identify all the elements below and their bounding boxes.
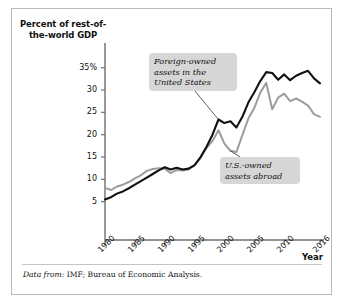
- source-text: IMF; Bureau of Economic Analysis.: [67, 270, 202, 279]
- y-tick-label: 15: [69, 152, 97, 161]
- annotation-foreign-owned: Foreign-owned assets in the United State…: [149, 53, 237, 91]
- y-tick-label: 5: [69, 197, 97, 206]
- x-axis-title: Year: [302, 252, 323, 262]
- y-tick-label: 25: [69, 107, 97, 116]
- source-note: Data from: IMF; Bureau of Economic Analy…: [23, 270, 202, 279]
- y-tick-label: 30: [69, 85, 97, 94]
- y-tick-label: 10: [69, 174, 97, 183]
- footer-divider: [22, 264, 322, 265]
- chart-figure: Percent of rest-of-the-world GDP Foreign…: [11, 8, 332, 295]
- y-tick-label: 35%: [69, 63, 97, 72]
- annotation-us-owned: U.S.-owned assets abroad: [220, 157, 300, 184]
- plot-area: Percent of rest-of-the-world GDP Foreign…: [12, 9, 333, 296]
- y-tick-label: 20: [69, 130, 97, 139]
- source-prefix: Data from:: [23, 270, 64, 279]
